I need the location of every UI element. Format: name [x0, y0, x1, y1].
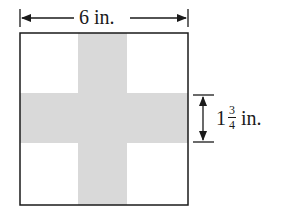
height-label-whole: 1: [216, 108, 226, 128]
height-label: 1 3 4 in.: [216, 104, 262, 131]
height-dimension-line: [193, 95, 214, 142]
horizontal-shaded-band: [20, 93, 188, 143]
width-label: 6 in.: [79, 7, 115, 27]
fraction-numerator: 3: [229, 104, 235, 116]
height-label-unit: in.: [241, 108, 262, 128]
height-label-fraction: 3 4: [228, 104, 236, 131]
fraction-denominator: 4: [229, 119, 235, 131]
